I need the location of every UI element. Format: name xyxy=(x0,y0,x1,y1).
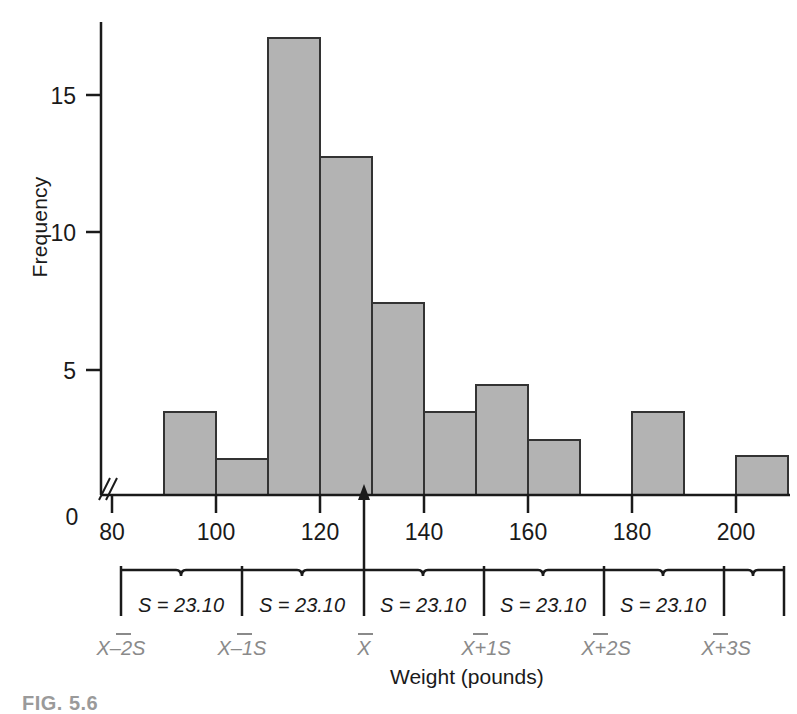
figure-caption: FIG. 5.6 xyxy=(22,692,98,714)
x-tick-label-160: 160 xyxy=(509,519,547,545)
y-tick-label-5: 5 xyxy=(63,358,76,384)
bar xyxy=(424,412,476,495)
std-dev-interval-label: S = 23.10 xyxy=(259,594,345,616)
deviation-label: X xyxy=(356,634,373,659)
svg-text:X–1S: X–1S xyxy=(217,637,268,659)
y-tick-label-10: 10 xyxy=(50,220,76,246)
svg-text:X+2S: X+2S xyxy=(580,637,631,659)
y-axis-ticks xyxy=(86,95,101,370)
bar xyxy=(268,38,320,495)
x-tick-label-80: 80 xyxy=(99,519,125,545)
bar xyxy=(476,385,528,495)
deviation-label: X+2S xyxy=(580,634,631,659)
deviation-label: X+3S xyxy=(700,634,751,659)
y-tick-label-15: 15 xyxy=(50,83,76,109)
mean-arrow-icon xyxy=(358,484,370,566)
bar xyxy=(320,157,372,495)
std-dev-interval-label: S = 23.10 xyxy=(380,594,466,616)
deviation-label: X+1S xyxy=(460,634,511,659)
deviation-labels: X–2S X–1S X X+1S X+2S X+3S xyxy=(96,634,752,659)
x-axis-ticks xyxy=(112,495,736,513)
x-tick-label-120: 120 xyxy=(301,519,339,545)
x-tick-label-200: 200 xyxy=(717,519,755,545)
x-tick-label-180: 180 xyxy=(613,519,651,545)
bar xyxy=(216,459,268,495)
std-dev-interval-label: S = 23.10 xyxy=(500,594,586,616)
bar xyxy=(736,456,788,495)
std-dev-interval-label: S = 23.10 xyxy=(138,594,224,616)
y-tick-label-0: 0 xyxy=(66,504,79,530)
std-dev-interval-label: S = 23.10 xyxy=(620,594,706,616)
x-tick-label-140: 140 xyxy=(405,519,443,545)
x-axis-title: Weight (pounds) xyxy=(390,665,544,689)
bar xyxy=(528,440,580,495)
svg-text:X+1S: X+1S xyxy=(460,637,511,659)
svg-text:X–2S: X–2S xyxy=(96,637,147,659)
bar xyxy=(164,412,216,495)
svg-text:X: X xyxy=(356,637,371,659)
bars-group xyxy=(164,38,788,495)
bar xyxy=(632,412,684,495)
bar xyxy=(372,303,424,495)
svg-text:X+3S: X+3S xyxy=(700,637,751,659)
deviation-label: X–2S xyxy=(96,634,147,659)
x-tick-label-100: 100 xyxy=(197,519,235,545)
deviation-label: X–1S xyxy=(217,634,268,659)
